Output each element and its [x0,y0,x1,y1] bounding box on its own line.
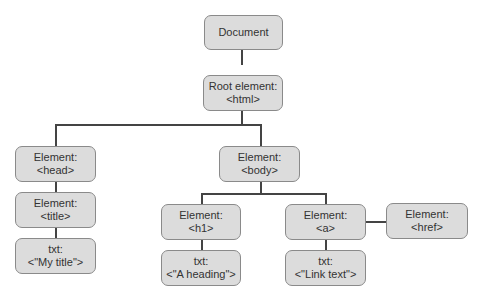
node-head: Element: <head> [15,146,96,182]
node-label: txt: [48,243,63,256]
node-tag: <title> [41,210,71,223]
node-tag: <"A heading"> [166,268,236,281]
node-label: Document [218,26,268,39]
node-title: Element: <title> [15,192,96,228]
node-label: txt: [318,255,333,268]
node-h1: Element: <h1> [161,204,241,240]
node-a: Element: <a> [285,204,366,240]
node-tag: <a> [316,222,335,235]
connector-title-txt [55,228,57,238]
node-body: Element: <body> [219,146,300,182]
node-tag: <head> [37,164,74,177]
node-document: Document [204,15,283,50]
connector-to-body [260,124,262,146]
connector-head-title [55,182,57,192]
node-tag: <h1> [188,222,213,235]
node-href: Element: <href> [386,203,468,239]
node-tag: <html> [226,93,260,106]
connector-to-head [55,124,57,146]
connector-html-down [241,111,243,124]
node-label: Element: [304,209,347,222]
node-label: Element: [179,209,222,222]
node-label: Element: [238,151,281,164]
node-tag: <href> [411,221,443,234]
node-label: Element: [405,208,448,221]
connector-to-h1 [201,193,203,204]
node-label: Element: [34,151,77,164]
connector-document-html [241,50,243,65]
node-html: Root element: <html> [203,75,283,111]
node-label: Element: [34,197,77,210]
connector-html-children [55,124,260,126]
node-a-text: txt: <"Link text"> [285,250,366,286]
node-label: Root element: [209,80,277,93]
connector-a-txt [325,240,327,250]
connector-a-href [366,221,386,223]
node-title-text: txt: <"My title"> [15,238,96,274]
node-tag: <"Link text"> [295,268,357,281]
connector-to-a [325,193,327,204]
node-tag: <"My title"> [28,256,84,269]
node-label: txt: [194,255,209,268]
connector-h1-txt [201,240,203,250]
connector-body-children [201,193,326,195]
node-tag: <body> [241,164,278,177]
node-h1-text: txt: <"A heading"> [161,250,241,286]
